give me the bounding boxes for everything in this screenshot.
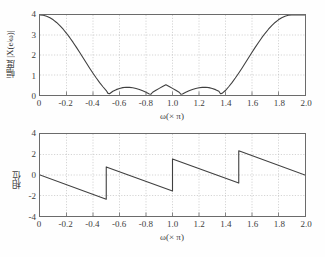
magnitude-x-axis-label: ω(× π)	[142, 111, 202, 121]
magnitude-ytick-2: 2	[18, 51, 36, 60]
phase-ytick-3: 2	[18, 150, 36, 159]
magnitude-xtick-3: -0.6	[104, 99, 134, 108]
phase-xtick-8: 1.6	[238, 220, 268, 229]
phase-axes	[39, 133, 306, 217]
phase-xtick-4: -0.8	[131, 220, 161, 229]
magnitude-y-axis-label-text: 幅度 |X(eʲω)|	[5, 30, 15, 78]
magnitude-xtick-9: 1.8	[264, 99, 294, 108]
magnitude-plot-svg	[40, 15, 305, 95]
phase-x-axis-label: ω(× π)	[142, 232, 202, 242]
phase-xtick-7: 1.4	[211, 220, 241, 229]
phase-xtick-10: 2.0	[291, 220, 321, 229]
phase-ytick-1: -2	[18, 192, 36, 201]
phase-plot-svg	[40, 134, 305, 216]
phase-panel: 相位 4 2 0 -2 -4	[0, 128, 325, 257]
phase-xtick-9: 1.8	[264, 220, 294, 229]
phase-xtick-3: -0.6	[104, 220, 134, 229]
magnitude-xtick-2: -0.4	[77, 99, 107, 108]
phase-xtick-5: 1.0	[158, 220, 188, 229]
phase-xtick-6: 1.2	[184, 220, 214, 229]
magnitude-xtick-6: 1.2	[184, 99, 214, 108]
magnitude-xtick-10: 2.0	[291, 99, 321, 108]
magnitude-panel: 幅度 |X(eʲω)| 4 3 2 1 0	[0, 0, 325, 128]
phase-xtick-2: -0.4	[77, 220, 107, 229]
magnitude-xtick-5: 1.0	[158, 99, 188, 108]
phase-ytick-4: 4	[18, 129, 36, 138]
magnitude-xtick-4: -0.8	[131, 99, 161, 108]
phase-ytick-2: 0	[18, 171, 36, 180]
magnitude-axes	[39, 14, 306, 96]
magnitude-ytick-3: 3	[18, 30, 36, 39]
phase-xtick-1: -0.2	[51, 220, 81, 229]
magnitude-xtick-8: 1.6	[238, 99, 268, 108]
figure-container: 幅度 |X(eʲω)| 4 3 2 1 0	[0, 0, 325, 257]
phase-xtick-0: 0	[24, 220, 54, 229]
magnitude-xtick-0: 0	[24, 99, 54, 108]
magnitude-xtick-1: -0.2	[51, 99, 81, 108]
magnitude-y-axis-label: 幅度 |X(eʲω)|	[6, 14, 18, 94]
magnitude-ytick-4: 4	[18, 10, 36, 19]
magnitude-xtick-7: 1.4	[211, 99, 241, 108]
magnitude-ytick-1: 1	[18, 71, 36, 80]
